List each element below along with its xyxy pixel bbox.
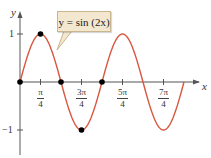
data-point: [58, 79, 64, 85]
y-tick-label: 1: [9, 29, 14, 39]
x-axis-arrow-icon: [193, 80, 200, 85]
x-tick-label: 7π4: [158, 88, 170, 109]
tick-denominator: 4: [161, 99, 166, 109]
y-axis-arrow-icon: [18, 11, 23, 18]
callout-pointer: [57, 31, 72, 50]
x-tick-label: 3π4: [76, 88, 88, 109]
data-point: [17, 79, 23, 85]
tick-numerator: 3π: [76, 88, 87, 99]
data-point: [99, 79, 105, 85]
tick-denominator: 4: [79, 99, 84, 109]
tick-numerator: π: [37, 88, 44, 99]
tick-numerator: 5π: [117, 88, 128, 99]
function-callout: y = sin (2x): [57, 11, 111, 32]
callout-text: y = sin (2x): [58, 16, 109, 28]
x-axis-label: x: [202, 81, 207, 92]
tick-numerator: 7π: [158, 88, 169, 99]
axes: [17, 11, 200, 155]
y-tick-label: −1: [2, 125, 13, 135]
x-tick-label: π4: [35, 88, 47, 109]
x-tick-label: 5π4: [117, 88, 129, 109]
data-point: [79, 127, 85, 133]
y-axis-label: y: [11, 7, 16, 18]
tick-denominator: 4: [38, 99, 43, 109]
tick-denominator: 4: [120, 99, 125, 109]
data-point: [38, 31, 44, 37]
